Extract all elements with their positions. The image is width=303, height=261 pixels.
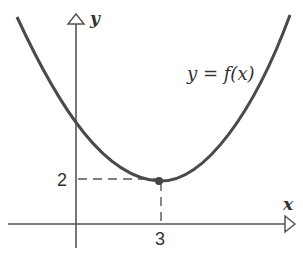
curve-label: y = f(x) [186, 63, 255, 84]
parabola-diagram: y x 2 3 y = f(x) [0, 0, 303, 261]
x-tick-label: 3 [155, 229, 165, 249]
y-axis-arrow-icon [68, 14, 84, 24]
x-axis-label: x [282, 194, 294, 214]
y-axis-label: y [89, 8, 101, 28]
minimum-point-marker [155, 177, 163, 185]
y-tick-label: 2 [57, 170, 67, 190]
x-axis-arrow-icon [285, 216, 295, 232]
parabola-curve [17, 15, 290, 181]
